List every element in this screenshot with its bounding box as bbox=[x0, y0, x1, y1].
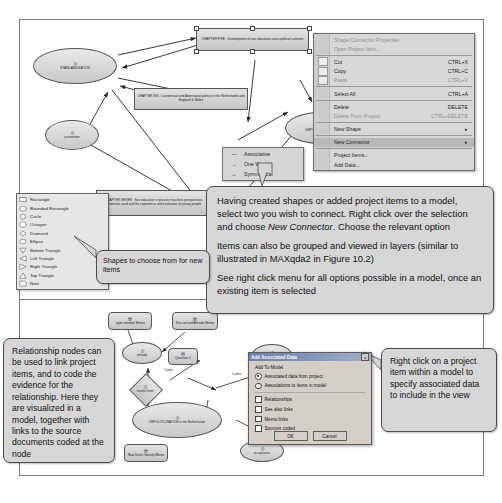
menu-item-shape-connector-properties: Shape/Connector Properties bbox=[314, 35, 474, 44]
model-node-chapter-five[interactable]: CHAPTER FIVE : Development of sex educat… bbox=[196, 28, 309, 51]
node-label: prevention bbox=[65, 136, 80, 140]
node-label: acceptance bbox=[254, 452, 270, 456]
new-connector-submenu[interactable]: — Associative → One Way ↔ Symmetrical bbox=[222, 147, 304, 181]
close-icon[interactable]: x bbox=[361, 353, 369, 361]
ok-button[interactable]: OK bbox=[274, 431, 308, 441]
palette-item-octagon[interactable]: Octagon bbox=[19, 221, 106, 229]
palette-item-label: Octagon bbox=[30, 222, 47, 227]
menu-item-add-data[interactable]: Add Data... bbox=[314, 160, 474, 169]
model-node-chapter-six[interactable]: CHAPTER SIX : Consensual and Adversarial… bbox=[134, 88, 248, 110]
edge-label-codes-2: Codes bbox=[232, 372, 241, 376]
checkbox-relationships[interactable]: Relationships bbox=[255, 396, 365, 403]
submenu-item-symmetrical[interactable]: ↔ Symmetrical bbox=[223, 169, 303, 179]
model-node-sexual-attitude-memo[interactable]: ▤ Sex-ual and Attitude Memo bbox=[172, 312, 218, 330]
palette-item-label: Circle bbox=[30, 214, 41, 219]
radio-label: Associated data from project bbox=[265, 374, 323, 379]
model-node-standardisation[interactable]: ⎙ STANDARDISATION bbox=[33, 48, 117, 84]
menu-item-label: Cut bbox=[334, 59, 342, 65]
menu-item-copy[interactable]: Copy CTRL+C bbox=[314, 67, 474, 76]
radio-associated-data-from-project[interactable]: Associated data from project bbox=[255, 373, 365, 380]
palette-item-ellipse[interactable]: Ellipse bbox=[19, 237, 106, 245]
node-label: CHAPTER SEVEN : Sex education in practic… bbox=[99, 199, 209, 206]
menu-item-select-all[interactable]: Select All CTRL+A bbox=[314, 89, 474, 98]
checkbox-see-also-links[interactable]: See also links bbox=[255, 406, 365, 413]
node-label: Question C bbox=[175, 357, 191, 361]
checkbox-memo-links[interactable]: Memo links bbox=[255, 416, 365, 423]
callout-paragraph-1: Having created shapes or added project i… bbox=[217, 195, 483, 234]
copy-icon bbox=[318, 67, 328, 76]
palette-item-label: Left Triangle bbox=[30, 256, 54, 261]
model-node-open-minded-memo[interactable]: ▤ 'open minded' Memo bbox=[108, 312, 152, 330]
menu-item-delete[interactable]: Delete DELETE bbox=[314, 102, 474, 111]
menu-item-accel: CTRL+C bbox=[434, 68, 468, 74]
note-icon bbox=[19, 280, 27, 287]
radio-icon bbox=[255, 373, 262, 380]
chevron-right-icon: ▸ bbox=[465, 126, 468, 132]
menu-item-accel: CTRL+DELETE bbox=[417, 113, 468, 119]
selection-handle[interactable] bbox=[194, 26, 199, 31]
menu-separator bbox=[316, 55, 472, 56]
dialog-body: Add To Model Associated data from projec… bbox=[249, 361, 371, 439]
radio-icon bbox=[255, 383, 262, 390]
dialog-separator bbox=[255, 392, 365, 393]
menu-item-paste: Paste CTRL+V bbox=[314, 76, 474, 85]
palette-item-bottom-triangle[interactable]: Bottom Triangle bbox=[19, 246, 106, 254]
model-node-attitude[interactable]: ⎙ attitude bbox=[122, 342, 162, 364]
node-label: Sex-ual and Attitude Memo bbox=[176, 322, 214, 326]
edge-label-codes-1: Codes bbox=[164, 368, 173, 372]
palette-item-note[interactable]: Note bbox=[19, 279, 106, 287]
palette-item-rounded-rectangle[interactable]: Rounded Rectangle bbox=[19, 204, 106, 212]
menu-item-accel: CTRL+V bbox=[434, 77, 468, 83]
palette-item-label: Bottom Triangle bbox=[30, 248, 61, 253]
ellipse-icon bbox=[19, 238, 27, 245]
model-node-question-c[interactable]: ▤ Question C bbox=[168, 348, 198, 365]
callout-right-click-info: Right click on a project item within a m… bbox=[381, 348, 497, 432]
screenshot-canvas: ⎙ STANDARDISATION ⎙ prevention ⎙ DEPOLIT… bbox=[0, 0, 502, 503]
callout-paragraph-2: Items can also be grouped and viewed in … bbox=[217, 240, 483, 266]
menu-item-new-connector[interactable]: New Connector ▸ bbox=[314, 138, 474, 147]
palette-item-top-triangle[interactable]: Top Triangle bbox=[19, 271, 106, 279]
radio-associations-to-items-in-model[interactable]: Associations to items in model bbox=[255, 383, 365, 390]
checkbox-icon bbox=[255, 396, 262, 403]
selection-handle[interactable] bbox=[250, 49, 255, 54]
menu-item-label: Shape/Connector Properties bbox=[334, 37, 399, 43]
selection-handle[interactable] bbox=[250, 26, 255, 31]
submenu-item-associative[interactable]: — Associative bbox=[223, 149, 303, 159]
menu-item-label: Delete From Project bbox=[334, 113, 380, 119]
palette-item-rectangle[interactable]: Rectangle bbox=[19, 196, 106, 204]
node-label: DEPOLITICISATION in the Netherlands bbox=[149, 421, 205, 425]
menu-item-accel: CTRL+X bbox=[434, 59, 468, 65]
octagon-icon bbox=[19, 221, 27, 228]
callout-paragraph-3: See right click menu for all options pos… bbox=[217, 272, 483, 298]
submenu-item-one-way[interactable]: → One Way bbox=[223, 159, 303, 169]
symmetrical-arrow-icon: ↔ bbox=[228, 171, 240, 177]
model-node-chapter-seven[interactable]: CHAPTER SEVEN : Sex education in practic… bbox=[96, 190, 212, 216]
selection-handle[interactable] bbox=[307, 49, 312, 54]
menu-separator bbox=[316, 135, 472, 136]
model-node-depoliticisation-nl[interactable]: ⎙ DEPOLITICISATION in the Netherlands bbox=[132, 402, 222, 438]
checkbox-icon bbox=[255, 416, 262, 423]
callout-text: . Choose the relevant option bbox=[333, 221, 450, 232]
palette-item-diamond[interactable]: Diamond bbox=[19, 229, 106, 237]
node-label: attitude bbox=[137, 354, 147, 358]
cancel-button[interactable]: Cancel bbox=[313, 431, 347, 441]
callout-text: Relationship nodes can be used to link p… bbox=[12, 346, 104, 459]
palette-item-right-triangle[interactable]: Right Triangle bbox=[19, 263, 106, 271]
menu-separator bbox=[316, 122, 472, 123]
selection-handle[interactable] bbox=[194, 49, 199, 54]
menu-item-project-items[interactable]: Project Items... bbox=[314, 151, 474, 160]
model-node-new-dutch-society-memo[interactable]: ▤ New Dutch Society Memo bbox=[124, 444, 168, 462]
model-node-prevention[interactable]: ⎙ prevention bbox=[45, 120, 99, 150]
context-menu[interactable]: Shape/Connector Properties Open Project … bbox=[313, 33, 475, 171]
menu-item-cut[interactable]: Cut CTRL+X bbox=[314, 57, 474, 66]
submenu-item-label: One Way bbox=[244, 161, 265, 167]
palette-item-circle[interactable]: Circle bbox=[19, 212, 106, 220]
selection-handle[interactable] bbox=[307, 26, 312, 31]
menu-separator bbox=[316, 100, 472, 101]
node-label: STANDARDISATION bbox=[60, 67, 90, 71]
callout-text: Shapes to choose from for new items bbox=[103, 256, 202, 274]
palette-item-left-triangle[interactable]: Left Triangle bbox=[19, 254, 106, 262]
add-associated-data-dialog[interactable]: Add Associated Data x Add To Model Assoc… bbox=[248, 352, 372, 445]
menu-separator bbox=[316, 148, 472, 149]
menu-item-new-shape[interactable]: New Shape ▸ bbox=[314, 125, 474, 134]
